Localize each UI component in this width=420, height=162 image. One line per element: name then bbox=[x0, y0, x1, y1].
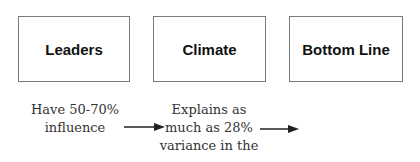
note-line: Have 50-70% bbox=[20, 101, 130, 119]
bottom-line-box: Bottom Line bbox=[289, 16, 403, 82]
arrow-right-icon bbox=[260, 124, 300, 134]
note-line: influence bbox=[20, 119, 130, 137]
bottom-line-label: Bottom Line bbox=[302, 41, 390, 58]
climate-label: Climate bbox=[182, 41, 236, 58]
leaders-label: Leaders bbox=[45, 41, 103, 58]
note-line: Explains as bbox=[150, 101, 268, 119]
note-line: much as 28% bbox=[150, 119, 268, 137]
leaders-box: Leaders bbox=[18, 16, 130, 82]
leaders-note: Have 50-70% influence bbox=[20, 101, 130, 137]
climate-box: Climate bbox=[153, 16, 266, 82]
climate-note: Explains as much as 28% variance in the bbox=[150, 101, 268, 155]
note-line: variance in the bbox=[150, 137, 268, 155]
